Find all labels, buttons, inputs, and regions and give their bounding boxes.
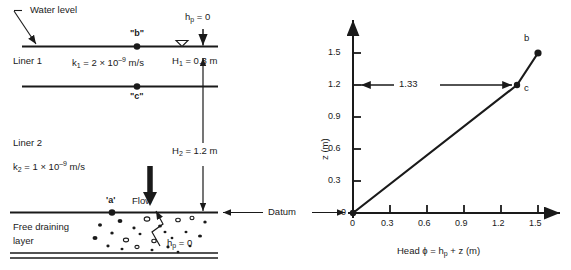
- point-a-marker: [109, 209, 116, 216]
- chart-y-tick-3: 0.9: [328, 112, 341, 121]
- point-b-label: "b": [130, 29, 144, 38]
- h1-dimension-label: H1 = 0.3 m: [172, 56, 217, 67]
- chart-y-ticks: [353, 53, 361, 213]
- h2-dimension-label: H2 = 1.2 m: [172, 146, 217, 157]
- water-level-leader: [14, 11, 36, 45]
- water-level-label: Water level: [30, 5, 77, 15]
- chart-point-b-marker: [534, 49, 541, 56]
- liner1-k-exponent: –9: [118, 56, 126, 63]
- head-profile-line: [353, 53, 538, 213]
- point-c-marker: [134, 83, 141, 90]
- free-draining-bottom-line: [10, 253, 218, 258]
- chart-y-tick-5: 1.5: [328, 48, 341, 57]
- point-b-marker: [134, 43, 141, 50]
- chart-x-tick-4: 1.2: [492, 219, 505, 228]
- datum-label: Datum: [268, 207, 296, 217]
- chart-point-c-label: c: [524, 83, 529, 93]
- liner1-name: Liner 1: [13, 56, 42, 66]
- chart-y-axis-label-unit: (m): [319, 138, 330, 155]
- h2-value: = 1.2 m: [183, 145, 218, 156]
- h1-symbol: H: [172, 55, 179, 66]
- figure-root: Water level "b" "c" 'a' Flow Liner 1 k1 …: [0, 0, 571, 270]
- chart-y-tick-4: 1.2: [328, 80, 341, 89]
- chart-x-tick-5: 1.5: [529, 219, 542, 228]
- h2-symbol: H: [172, 145, 179, 156]
- liner1-k-value: = 2 × 10: [81, 57, 119, 68]
- chart-y-tick-1: 0.3: [328, 176, 341, 185]
- free-draining-label-line1: Free draining: [13, 222, 69, 232]
- liner2-k-exponent: –9: [59, 160, 67, 167]
- chart-y-axis-label: z (m): [320, 138, 330, 160]
- hp-bottom-leader: [152, 211, 163, 246]
- h1-value: = 0.3 m: [183, 55, 218, 66]
- liner2-name: Liner 2: [13, 138, 42, 148]
- chart-x-tick-3: 0.9: [455, 219, 468, 228]
- chart-x-axis-label-plus: +: [448, 245, 459, 256]
- hp-top-value: = 0: [194, 11, 210, 22]
- hp-bottom-label: hp = 0: [167, 238, 192, 249]
- chart-x-axis-label: Head ϕ = hp + z (m): [397, 246, 480, 257]
- chart-x-tick-1: 0.3: [381, 219, 394, 228]
- chart-x-axis-label-eq: =: [428, 245, 439, 256]
- chart-x-axis-label-prefix: Head: [397, 245, 422, 256]
- point-c-label: "c": [130, 92, 144, 101]
- hp-bottom-value: = 0: [176, 237, 192, 248]
- flow-label: Flow: [132, 196, 152, 206]
- liner1-permeability: k1 = 2 × 10–9 m/s: [72, 56, 144, 69]
- free-draining-label-line2: layer: [13, 236, 34, 246]
- chart-x-ticks: [353, 205, 538, 213]
- chart-x-tick-0: 0: [350, 219, 355, 228]
- liner2-k-value: = 1 × 10: [22, 161, 60, 172]
- chart-x-tick-2: 0.6: [418, 219, 431, 228]
- chart-origin-marker: [350, 210, 356, 216]
- liner1-k-unit: m/s: [126, 57, 144, 68]
- annotation-1p33-label: 1.33: [399, 79, 418, 89]
- point-a-label: 'a': [106, 196, 115, 205]
- left-diagram-graphics: [0, 0, 571, 270]
- liner2-k-unit: m/s: [67, 161, 85, 172]
- chart-x-axis-label-unit: (m): [463, 245, 480, 256]
- chart-y-axis-label-symbol: z: [319, 155, 330, 160]
- chart-point-b-label: b: [524, 33, 529, 43]
- liner2-permeability: k2 = 1 × 10–9 m/s: [13, 160, 85, 173]
- chart-point-c-marker: [514, 82, 520, 88]
- hp-top-label: hp = 0: [185, 12, 210, 23]
- chart-y-tick-0: 0: [341, 208, 346, 217]
